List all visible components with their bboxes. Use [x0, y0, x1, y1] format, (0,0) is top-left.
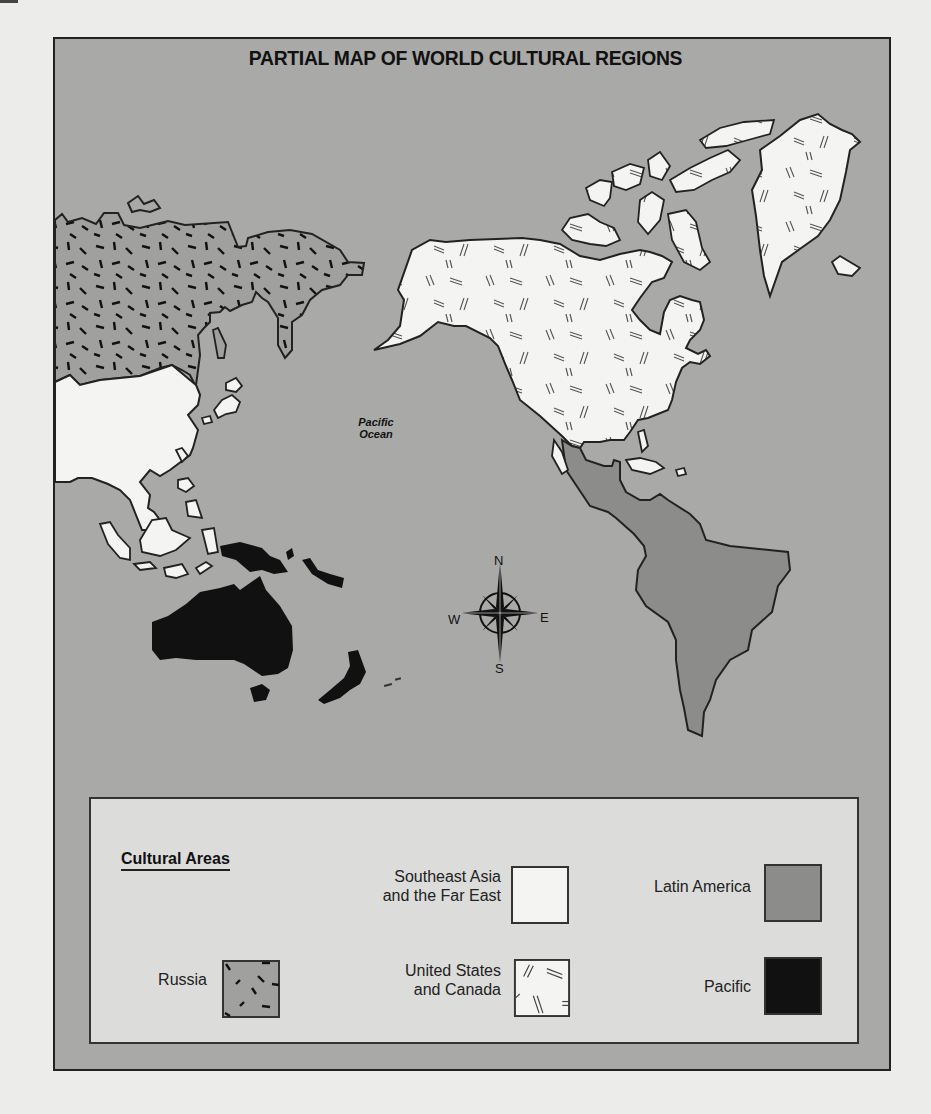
legend-title: Cultural Areas [121, 850, 230, 871]
legend-label-latin-america: Latin America [591, 877, 751, 896]
compass-east-label: E [540, 610, 549, 625]
legend-swatch-southeast-asia [511, 866, 569, 924]
region-russia [55, 213, 364, 395]
legend-label-line: and Canada [301, 980, 501, 999]
compass-south-label: S [495, 661, 504, 676]
region-us-canada [374, 238, 710, 448]
hawaii-islands [384, 677, 401, 687]
region-latin-america [562, 440, 790, 736]
region-southeast-asia [55, 365, 200, 530]
legend-swatch-russia [222, 960, 280, 1018]
legend-label-southeast-asia: Southeast Asia and the Far East [301, 867, 501, 905]
ocean-label-line2: Ocean [354, 428, 398, 440]
ocean-label: Pacific Ocean [354, 416, 398, 440]
legend-label-line: United States [301, 961, 501, 980]
legend-label-us-canada: United States and Canada [301, 961, 501, 999]
legend-label-russia: Russia [121, 970, 207, 989]
legend-label-line: Southeast Asia [301, 867, 501, 886]
legend-label-line: and the Far East [301, 886, 501, 905]
legend-swatch-pacific [764, 957, 822, 1015]
map-title: PARTIAL MAP OF WORLD CULTURAL REGIONS [37, 46, 894, 70]
legend-label-pacific: Pacific [631, 977, 751, 996]
legend-swatch-latin-america [764, 864, 822, 922]
legend-swatch-us-canada [513, 959, 571, 1017]
compass-west-label: W [448, 612, 460, 627]
ocean-label-line1: Pacific [354, 416, 398, 428]
compass-north-label: N [494, 553, 503, 568]
compass-rose [460, 561, 540, 665]
legend: Cultural Areas Southeast Asia and the Fa… [89, 797, 859, 1044]
